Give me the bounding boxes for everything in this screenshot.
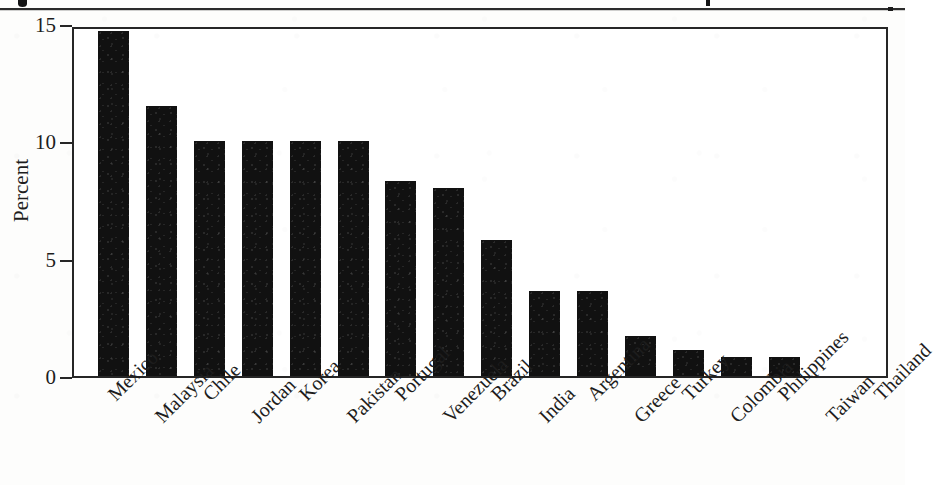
y-axis-tick-label-wrap: 15 [0,15,56,36]
bar-texture [577,291,608,376]
bar-texture [194,141,225,376]
x-axis-tick-label: India [535,383,578,426]
bar-texture [338,141,369,376]
x-axis-tick-label: Jordan [247,374,299,426]
cropped-title-glyph-secondary [706,0,710,6]
y-axis-tick-label: 10 [8,132,56,153]
x-axis-tick-label: Taiwan [822,371,878,427]
y-axis-tick [60,260,72,262]
bar-texture [529,291,560,376]
bar-texture [242,141,273,376]
bar [385,181,416,376]
plot-area [72,27,888,378]
y-axis-tick [60,25,72,27]
y-axis-tick-label-wrap: 10 [0,132,56,153]
y-axis-tick-label: 5 [8,250,56,271]
x-axis-tick-label: Greece [630,372,684,426]
bar [290,141,321,376]
y-axis-tick-label-wrap: 5 [0,250,56,271]
bar-texture [146,106,177,376]
bar [529,291,560,376]
bar [194,141,225,376]
bar-texture [290,141,321,376]
scan-speck [888,7,893,11]
bar [338,141,369,376]
bar [146,106,177,376]
bar-texture [385,181,416,376]
cropped-title-glyph [18,0,27,7]
y-axis-tick-label: 15 [8,15,56,36]
bar-texture [98,31,129,376]
bar [242,141,273,376]
x-axis-tick-labels: MexicoMalaysiaChileJordanKoreaPakistanPo… [0,378,905,485]
y-axis-tick [60,142,72,144]
bar [577,291,608,376]
bar [98,31,129,376]
page-header-rule [0,8,905,10]
